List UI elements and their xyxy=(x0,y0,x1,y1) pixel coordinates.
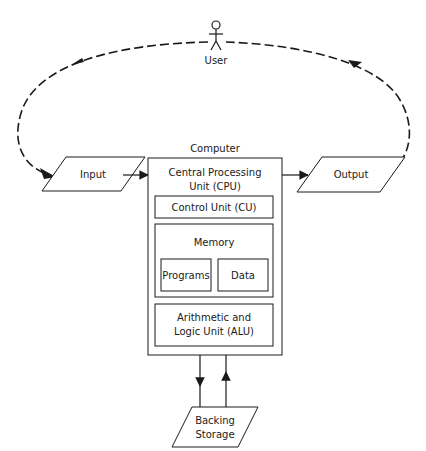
computer-box: Central Processing Unit (CPU) Control Un… xyxy=(148,158,282,355)
cpu-label-line2: Unit (CPU) xyxy=(189,181,241,192)
computer-architecture-diagram: User Input Computer Central Processing U… xyxy=(0,0,426,451)
programs-label: Programs xyxy=(162,270,209,281)
input-label: Input xyxy=(80,169,106,180)
backing-storage-node: Backing Storage xyxy=(172,407,258,447)
arrow-icon xyxy=(71,58,84,65)
alu-box xyxy=(155,304,273,346)
backing-storage-label-line1: Backing xyxy=(195,415,235,426)
data-label: Data xyxy=(231,270,255,281)
cpu-label-line1: Central Processing xyxy=(169,167,262,178)
alu-label-line2: Logic Unit (ALU) xyxy=(174,326,254,337)
arrow-icon xyxy=(348,60,362,68)
output-node: Output xyxy=(297,157,405,192)
output-label: Output xyxy=(334,169,369,180)
input-node: Input xyxy=(42,157,145,191)
user-actor: User xyxy=(205,21,229,66)
output-to-user-flow xyxy=(226,42,409,176)
control-unit-label: Control Unit (CU) xyxy=(172,202,257,213)
memory-label: Memory xyxy=(194,237,235,248)
computer-label: Computer xyxy=(190,143,241,154)
user-label: User xyxy=(205,55,229,66)
alu-label-line1: Arithmetic and xyxy=(177,312,251,323)
user-icon xyxy=(212,21,220,29)
backing-storage-label-line2: Storage xyxy=(195,429,234,440)
